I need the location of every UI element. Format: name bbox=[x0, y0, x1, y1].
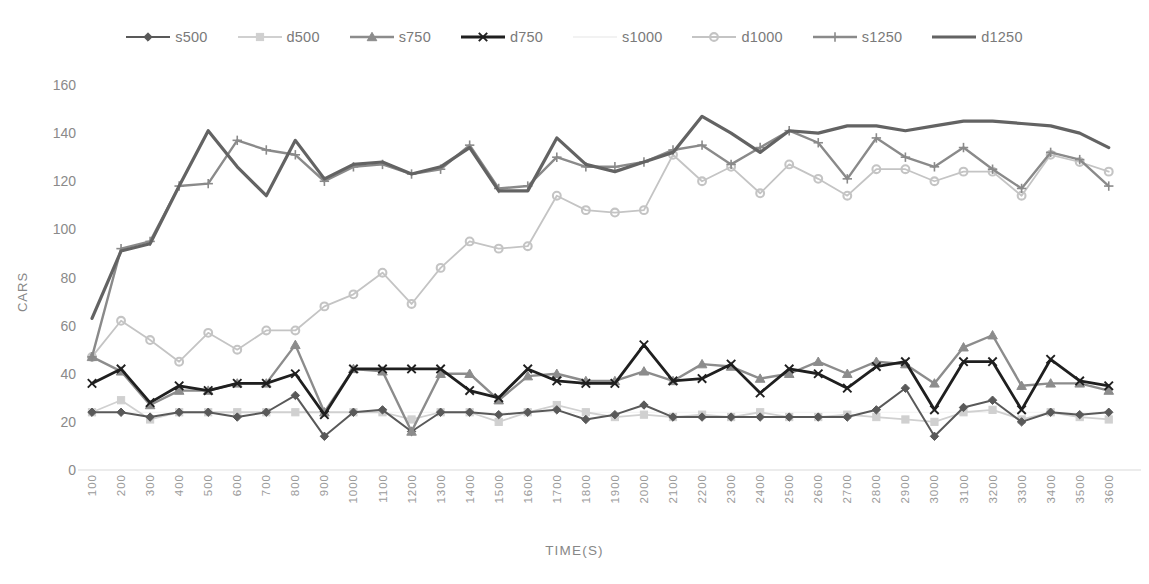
x-axis-title: TIME(S) bbox=[0, 543, 1149, 558]
x-tick-label: 1900 bbox=[609, 474, 621, 504]
x-tick-label: 2200 bbox=[696, 474, 708, 504]
x-tick-label: 2600 bbox=[812, 474, 824, 504]
x-tick-label: 3500 bbox=[1074, 474, 1086, 504]
x-tick-label: 1000 bbox=[347, 474, 359, 504]
x-tick-label: 1600 bbox=[522, 474, 534, 504]
x-tick-label: 1700 bbox=[551, 474, 563, 504]
x-tick-label: 1500 bbox=[493, 474, 505, 504]
line-chart: s500d500s750d750s1000d1000s1250d1250 CAR… bbox=[0, 0, 1149, 584]
x-tick-label: 1800 bbox=[580, 474, 592, 504]
x-tick-label: 2000 bbox=[638, 474, 650, 504]
x-tick-label: 2900 bbox=[899, 474, 911, 504]
x-tick-label: 2300 bbox=[725, 474, 737, 504]
x-tick-label: 900 bbox=[318, 474, 330, 496]
x-tick-label: 800 bbox=[289, 474, 301, 496]
series-d1250 bbox=[92, 116, 1109, 318]
x-tick-label: 200 bbox=[115, 474, 127, 496]
x-tick-label: 100 bbox=[86, 474, 98, 496]
x-tick-label: 500 bbox=[202, 474, 214, 496]
x-tick-label: 700 bbox=[260, 474, 272, 496]
x-tick-label: 3000 bbox=[928, 474, 940, 504]
x-tick-label: 1300 bbox=[435, 474, 447, 504]
x-tick-label: 2800 bbox=[870, 474, 882, 504]
series-s1250 bbox=[87, 126, 1113, 362]
x-tick-label: 3600 bbox=[1103, 474, 1115, 504]
x-tick-label: 2700 bbox=[841, 474, 853, 504]
x-tick-label: 400 bbox=[173, 474, 185, 496]
x-tick-label: 3100 bbox=[958, 474, 970, 504]
x-tick-label: 300 bbox=[144, 474, 156, 496]
x-axis-tick-labels: 1002003004005006007008009001000110012001… bbox=[0, 470, 1149, 540]
x-tick-label: 3300 bbox=[1016, 474, 1028, 504]
x-tick-label: 1100 bbox=[377, 474, 389, 503]
x-tick-label: 2100 bbox=[667, 474, 679, 504]
x-tick-label: 2400 bbox=[754, 474, 766, 504]
x-tick-label: 2500 bbox=[783, 474, 795, 504]
x-tick-label: 1400 bbox=[464, 474, 476, 504]
series-d1000 bbox=[88, 151, 1113, 366]
x-tick-label: 1200 bbox=[406, 474, 418, 504]
x-tick-label: 3200 bbox=[987, 474, 999, 504]
x-tick-label: 3400 bbox=[1045, 474, 1057, 504]
x-tick-label: 600 bbox=[231, 474, 243, 496]
